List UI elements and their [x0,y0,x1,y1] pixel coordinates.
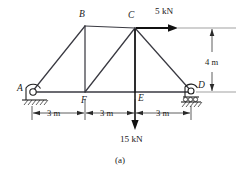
node-label-E: E [137,93,144,103]
pin-circle-D [188,88,194,94]
dim-arrow-A-right [33,111,40,116]
dim-arrow-E-left [127,111,134,116]
roller-wheels-D [183,97,197,101]
dimension-label-F-E: 3 m [100,108,113,118]
horizontal-load-5kN [136,24,236,32]
pin-circle-A [30,89,36,95]
node-label-F: F [80,95,87,105]
figure-caption: (a) [115,155,125,165]
node-label-A: A [16,83,23,93]
dim-arrow-4m-up [210,29,215,36]
dimension-label-E-D: 3 m [156,108,169,118]
load-labels: 5 kN 15 kN [120,6,173,144]
dim-arrow-F-right [86,111,93,116]
member-B-C [85,26,135,28]
arrowhead-5kN [168,24,178,32]
node-label-D: D [197,80,205,90]
load-label-15kN: 15 kN [120,134,143,144]
member-C-D [135,28,191,91]
truss-figure: A B C D E F 5 kN 15 kN 3 m 3 m 3 m 4 m (… [0,0,240,173]
dimension-label-height: 4 m [205,57,218,67]
dim-arrow-D-left [183,111,190,116]
arrowhead-15kN [131,120,138,130]
node-label-C: C [128,10,135,20]
truss-members [30,26,193,92]
dimension-labels: 3 m 3 m 3 m 4 m [47,57,218,118]
dim-arrow-E-right [136,111,143,116]
member-A-B [32,26,85,92]
node-labels: A B C D E F [16,9,205,105]
dim-arrow-4m-down [210,84,215,91]
node-label-B: B [79,9,85,19]
member-F-C [85,28,135,92]
ground-hatch-D [182,102,202,107]
dimension-label-A-F: 3 m [47,108,60,118]
ground-hatch-A [24,100,48,105]
dim-arrow-F-left [77,111,84,116]
load-label-5kN: 5 kN [155,6,173,16]
